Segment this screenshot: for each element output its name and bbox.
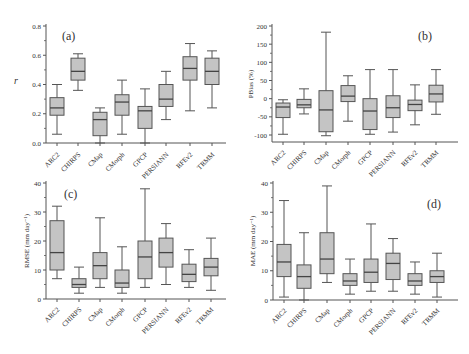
y-axis-label: PBias (%) (247, 69, 255, 98)
iqr-box (277, 244, 291, 276)
iqr-box (276, 103, 290, 118)
panel-label: (d) (427, 197, 441, 211)
iqr-box (50, 221, 64, 270)
x-tick-label: RFEv2 (174, 305, 194, 325)
box-rfev2 (182, 250, 196, 288)
iqr-box (297, 99, 311, 107)
y-tick-label: 0 (264, 95, 268, 103)
y-tick-label: 10 (261, 267, 269, 275)
x-tick-label: CMorph (332, 306, 355, 329)
box-chirps (72, 267, 86, 293)
y-tick-label: 40 (261, 180, 269, 188)
panel-label: (b) (418, 29, 432, 43)
iqr-box (386, 253, 400, 279)
box-gpcp (138, 89, 152, 143)
y-tick-label: -100 (254, 132, 267, 140)
x-tick-label: GPCP (357, 307, 375, 325)
panel-c-rmse: 010203040RMSE (mm day⁻¹)(c)ARC2CHIRPSCMa… (23, 180, 226, 336)
iqr-box (408, 100, 422, 111)
iqr-box (341, 86, 355, 102)
y-tick-label: 0 (38, 296, 42, 304)
y-tick-label: 20 (34, 238, 42, 246)
box-chirps (297, 89, 311, 114)
box-trmm (205, 51, 219, 108)
panel-label: (a) (62, 29, 75, 43)
box-cmap (93, 108, 107, 143)
box-cmorph (115, 80, 129, 134)
box-arc2 (277, 201, 291, 298)
box-persiann (159, 71, 173, 119)
y-tick-label: 200 (257, 23, 268, 31)
box-chirps (297, 233, 311, 300)
y-tick-label: 0.8 (32, 23, 41, 31)
x-tick-label: TRMM (421, 306, 442, 327)
x-tick-label: CHIRPS (285, 149, 308, 172)
x-tick-label: GPCP (131, 151, 149, 169)
y-tick-label: 40 (34, 180, 42, 188)
x-tick-label: TRMM (420, 148, 441, 169)
box-cmap (320, 186, 334, 283)
y-tick-label: 10 (34, 267, 42, 275)
box-plot-figure: 0.00.20.40.60.8r(a)ARC2CHIRPSCMapCMorphG… (0, 0, 469, 354)
box-rfev2 (408, 85, 422, 125)
y-axis-label: RMSE (mm day⁻¹) (23, 213, 31, 268)
y-tick-label: 0 (265, 297, 269, 305)
y-tick-label: 100 (257, 59, 268, 67)
iqr-box (72, 279, 86, 288)
box-persiann (386, 70, 400, 132)
x-tick-label: TRMM (196, 150, 217, 171)
x-tick-label: RFEv2 (400, 148, 420, 168)
box-persiann (159, 224, 173, 285)
iqr-box (319, 91, 333, 132)
x-tick-label: CMap (313, 306, 331, 324)
box-chirps (71, 54, 85, 91)
y-tick-label: 0.2 (32, 110, 41, 118)
iqr-box (386, 96, 400, 118)
x-tick-label: CHIRPS (285, 307, 308, 330)
x-tick-label: CMorph (330, 148, 353, 171)
x-tick-label: RFEv2 (175, 150, 195, 170)
x-tick-label: CHIRPS (60, 306, 83, 329)
y-tick-label: 20 (261, 238, 269, 246)
iqr-box (115, 270, 129, 287)
box-cmorph (341, 76, 355, 121)
box-arc2 (276, 100, 290, 135)
y-tick-label: 0.4 (32, 81, 41, 89)
x-tick-label: RFEv2 (400, 306, 420, 326)
x-tick-label: TRMM (195, 305, 216, 326)
iqr-box (138, 106, 152, 128)
box-persiann (386, 239, 400, 292)
x-tick-label: CMorph (104, 305, 127, 328)
iqr-box (363, 99, 377, 130)
x-tick-label: ARC2 (43, 305, 62, 324)
iqr-box (182, 264, 196, 281)
y-tick-label: 0.6 (32, 52, 41, 60)
box-cmap (93, 218, 107, 288)
y-axis-label: r (14, 75, 18, 86)
box-rfev2 (408, 262, 422, 294)
x-tick-label: CMap (312, 148, 330, 166)
y-tick-label: 50 (260, 77, 268, 85)
y-tick-label: 150 (257, 41, 268, 49)
panel-label: (c) (64, 187, 77, 201)
x-tick-label: CMap (86, 305, 104, 323)
panel-a-correlation: 0.00.20.40.60.8r(a)ARC2CHIRPSCMapCMorphG… (14, 23, 226, 181)
iqr-box (408, 274, 422, 286)
box-cmap (319, 32, 333, 136)
box-trmm (429, 70, 443, 115)
iqr-box (138, 241, 152, 279)
box-arc2 (50, 206, 64, 279)
x-tick-label: CMorph (104, 150, 127, 173)
iqr-box (343, 274, 357, 286)
y-tick-label: 0.0 (32, 140, 41, 148)
box-trmm (204, 238, 218, 290)
x-tick-label: CMap (86, 150, 104, 168)
y-axis-label: MAE (mm day⁻¹) (249, 215, 257, 266)
iqr-box (93, 112, 107, 135)
x-tick-label: ARC2 (269, 148, 288, 167)
iqr-box (115, 95, 129, 115)
box-trmm (430, 253, 444, 297)
box-gpcp (138, 189, 152, 288)
box-arc2 (50, 85, 64, 135)
box-gpcp (363, 70, 377, 135)
